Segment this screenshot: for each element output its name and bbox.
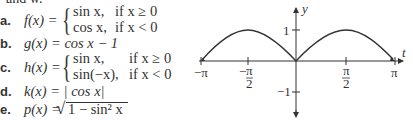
x-axis-label: t [402, 45, 406, 60]
x-tick-label: −π [194, 65, 208, 80]
svg-text:2: 2 [343, 76, 350, 91]
y-axis-label: y [300, 1, 308, 16]
x-tick-label: π 2 [342, 63, 350, 91]
y-tick-label: 1 [283, 23, 290, 38]
x-tick-label: π [391, 65, 398, 80]
x-tick-label: − π 2 [239, 63, 253, 91]
y-tick-label: −1 [277, 84, 291, 99]
graph: y t −π π − π 2 π 2 1 −1 [0, 0, 413, 124]
curve [202, 30, 393, 61]
svg-text:2: 2 [246, 76, 253, 91]
